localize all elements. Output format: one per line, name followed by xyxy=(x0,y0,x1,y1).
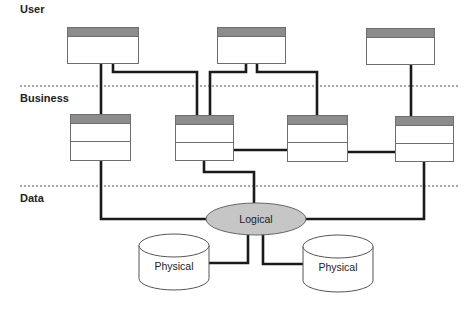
tier-label-business: Business xyxy=(20,92,69,104)
physical-databases: PhysicalPhysical xyxy=(139,234,373,292)
cylinder-top xyxy=(303,235,373,258)
business-tier-components xyxy=(71,115,454,162)
architecture-diagram: PhysicalPhysical Logical xyxy=(0,0,472,310)
physical-database-1: Physical xyxy=(139,234,209,290)
component-header xyxy=(218,28,286,37)
business-component-b3 xyxy=(288,116,348,162)
physical-label: Physical xyxy=(318,261,357,273)
business-component-b4 xyxy=(396,117,454,162)
logical-data-node: Logical xyxy=(206,203,306,235)
user-component-u1 xyxy=(68,28,139,64)
connector-line xyxy=(210,63,246,115)
connector-line xyxy=(209,234,248,263)
component-header xyxy=(396,117,454,126)
connector-line xyxy=(204,160,254,203)
user-tier-components xyxy=(68,28,435,65)
connector-line xyxy=(257,63,317,115)
connector-line xyxy=(101,160,206,219)
component-header xyxy=(367,29,435,38)
component-header xyxy=(71,115,131,124)
tier-label-user: User xyxy=(20,3,44,15)
connector-line xyxy=(113,63,197,115)
component-header xyxy=(176,116,234,125)
business-component-b2 xyxy=(176,116,234,161)
cylinder-top xyxy=(139,234,209,257)
user-component-u2 xyxy=(218,28,286,64)
tier-label-data: Data xyxy=(20,192,44,204)
connector-line xyxy=(305,161,424,219)
connector-line xyxy=(263,234,303,264)
physical-database-2: Physical xyxy=(303,235,373,292)
logical-label: Logical xyxy=(239,213,272,225)
user-component-u3 xyxy=(367,29,435,65)
physical-label: Physical xyxy=(154,260,193,272)
component-header xyxy=(288,116,348,125)
business-component-b1 xyxy=(71,115,131,161)
component-header xyxy=(68,28,139,37)
